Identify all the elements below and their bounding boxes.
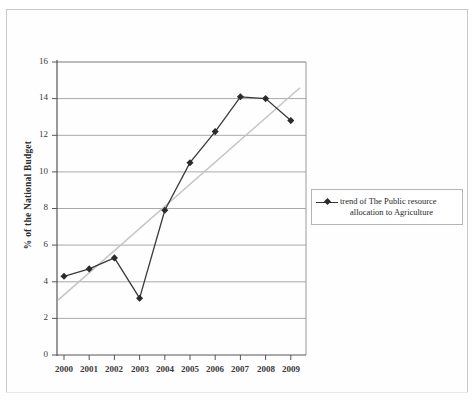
y-tick-label-2: 2: [26, 312, 48, 322]
y-axis-title: % of the National Budget: [23, 115, 33, 275]
line-chart: 16 14 12 10 8 6 4 2 0 2000 2001 2002 200…: [0, 0, 476, 402]
y-tick-marks: [52, 62, 57, 355]
y-tick-label-14: 14: [26, 92, 48, 102]
legend-label-line1: trend of The Public resource: [340, 196, 437, 206]
scan-edge-artifact: [6, 392, 468, 393]
legend-label-line2: allocation to Agriculture: [340, 207, 437, 218]
x-tick-marks: [64, 355, 291, 360]
trendline: [58, 88, 300, 300]
data-point-markers: [60, 93, 294, 301]
y-tick-label-0: 0: [26, 349, 48, 359]
x-tick-label-2009: 2009: [276, 364, 306, 374]
legend-series-marker-icon: [316, 197, 338, 209]
y-tick-label-4: 4: [26, 276, 48, 286]
data-series-line: [64, 97, 291, 298]
chart-legend[interactable]: trend of The Public resource allocation …: [311, 189, 463, 225]
legend-entry-label: trend of The Public resource allocation …: [340, 196, 437, 218]
y-tick-label-16: 16: [26, 56, 48, 66]
